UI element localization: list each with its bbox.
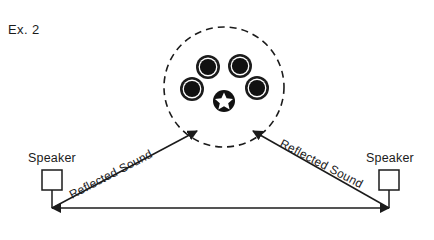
acoustic-diagram: Ex. 2 bbox=[0, 0, 434, 240]
speaker-right-box[interactable] bbox=[379, 170, 399, 190]
speaker-right-label: Speaker bbox=[366, 151, 414, 165]
speaker-left-box[interactable] bbox=[42, 170, 62, 190]
figure-container: Ex. 2 bbox=[0, 0, 434, 240]
speaker-left-label: Speaker bbox=[28, 151, 76, 165]
driver-lower-left bbox=[180, 77, 204, 101]
driver-upper-right bbox=[228, 54, 252, 78]
driver-lower-right bbox=[245, 76, 269, 100]
reflected-sound-right-label: Reflected Sound bbox=[278, 136, 366, 191]
driver-upper-left bbox=[196, 55, 220, 79]
figure-caption: Ex. 2 bbox=[8, 22, 40, 37]
listener-position-star bbox=[213, 90, 235, 112]
reflected-sound-left-label: Reflected Sound bbox=[67, 147, 155, 202]
